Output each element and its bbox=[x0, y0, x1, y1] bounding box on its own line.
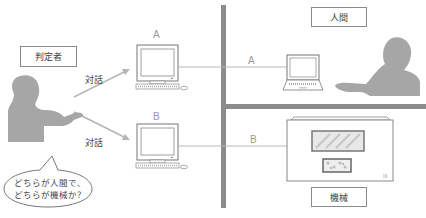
dialogue-label-bottom: 対話 bbox=[85, 136, 103, 149]
human-silhouette-icon bbox=[335, 37, 420, 96]
judge-silhouette-icon bbox=[8, 75, 83, 142]
horizontal-wall bbox=[221, 104, 426, 109]
machine-label: 機械 bbox=[311, 187, 367, 207]
line-b-label: B bbox=[250, 134, 257, 145]
speech-bubble-line-2: どちらが機械か？ bbox=[14, 189, 84, 201]
svg-text:III: III bbox=[383, 173, 387, 179]
speech-bubble-text: どちらが人間で、 どちらが機械か？ bbox=[14, 177, 84, 201]
human-label: 人間 bbox=[311, 7, 367, 27]
human-label-text: 人間 bbox=[330, 11, 348, 24]
line-a-label: A bbox=[248, 55, 255, 66]
machine-icon: III bbox=[287, 117, 393, 181]
judge-label: 判定者 bbox=[20, 46, 77, 67]
speech-bubble-line-1: どちらが人間で、 bbox=[14, 177, 84, 189]
dialogue-label-top: 対話 bbox=[85, 73, 103, 86]
terminal-a-label: A bbox=[153, 29, 160, 40]
machine-label-text: 機械 bbox=[330, 191, 348, 204]
laptop-icon bbox=[283, 55, 323, 90]
terminal-b-label: B bbox=[153, 111, 160, 122]
judge-label-text: 判定者 bbox=[35, 50, 62, 63]
